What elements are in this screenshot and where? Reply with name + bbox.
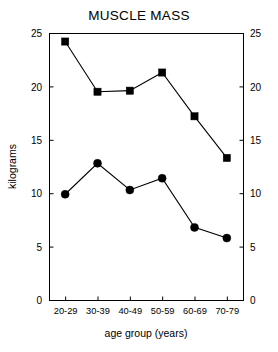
data-point-square <box>94 88 101 95</box>
y-axis-tick-label-left: 10 <box>31 188 43 199</box>
x-axis-tick-label: 50-59 <box>151 306 175 316</box>
y-axis-tick-label-left: 20 <box>31 82 43 93</box>
data-point-circle <box>191 223 199 231</box>
data-point-circle <box>223 234 231 242</box>
y-axis-tick-label-right: 5 <box>250 242 256 253</box>
y-axis-tick-label-right: 15 <box>250 135 262 146</box>
plot-frame <box>50 34 244 301</box>
series-line-circle-series <box>65 163 227 238</box>
y-axis-tick-label-left: 15 <box>31 135 43 146</box>
series-line-square-series <box>65 42 227 158</box>
x-axis-tick-label: 70-79 <box>215 306 239 316</box>
chart-plot-area: 0055101015152020252520-2930-3940-4950-59… <box>0 0 278 352</box>
y-axis-tick-label-left: 5 <box>36 242 42 253</box>
data-point-square <box>223 154 230 161</box>
y-axis-tick-label-right: 10 <box>250 188 262 199</box>
y-axis-title: kilograms <box>6 144 18 189</box>
y-axis-tick-label-right: 20 <box>250 82 262 93</box>
x-axis-tick-label: 40-49 <box>118 306 142 316</box>
y-axis-tick-label-right: 25 <box>250 28 262 39</box>
y-axis-tick-label-left: 0 <box>36 295 42 306</box>
x-axis-tick-label: 30-39 <box>86 306 110 316</box>
data-point-square <box>126 87 133 94</box>
x-axis-title: age group (years) <box>105 327 188 339</box>
data-point-circle <box>126 186 134 194</box>
data-point-square <box>191 113 198 120</box>
data-point-square <box>62 38 69 45</box>
chart-figure: MUSCLE MASS 0055101015152020252520-2930-… <box>0 0 278 352</box>
x-axis-tick-label: 60-69 <box>183 306 207 316</box>
y-axis-tick-label-right: 0 <box>250 295 256 306</box>
y-axis-tick-label-left: 25 <box>31 28 43 39</box>
data-point-circle <box>94 159 102 167</box>
x-axis-tick-label: 20-29 <box>54 306 78 316</box>
data-point-square <box>159 69 166 76</box>
data-point-circle <box>158 174 166 182</box>
data-point-circle <box>61 190 69 198</box>
